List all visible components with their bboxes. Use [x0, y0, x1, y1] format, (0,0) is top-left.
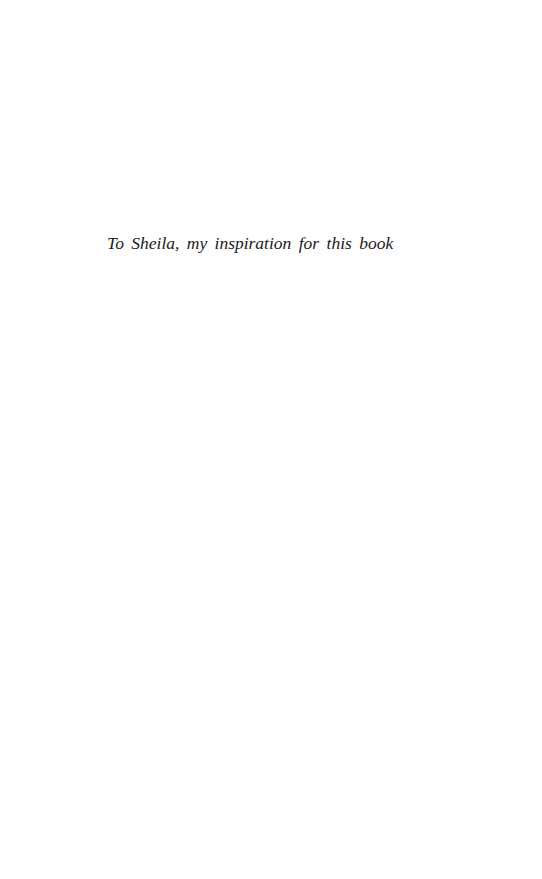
dedication-text: To Sheila, my inspiration for this book — [107, 232, 393, 254]
book-page: To Sheila, my inspiration for this book — [0, 0, 542, 879]
